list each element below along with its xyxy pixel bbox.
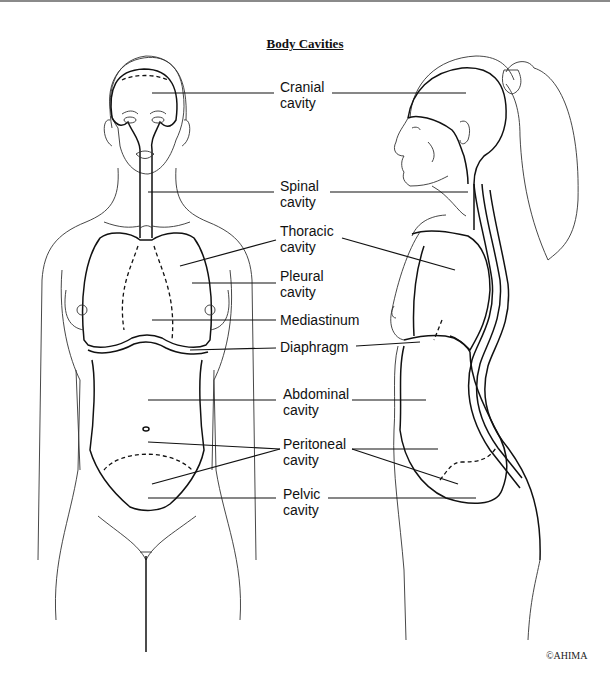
- side-figure: [391, 56, 578, 640]
- label-mediastinum: Mediastinum: [280, 312, 359, 328]
- label-cranial-cavity: Cranial cavity: [280, 79, 324, 111]
- label-cranial-line2: cavity: [280, 95, 324, 111]
- label-thoracic-line2: cavity: [280, 239, 334, 255]
- label-pelvic-line1: Pelvic: [283, 486, 320, 502]
- label-pelvic-cavity: Pelvic cavity: [283, 486, 320, 518]
- label-thoracic-line1: Thoracic: [280, 223, 334, 239]
- label-diaphragm: Diaphragm: [280, 339, 348, 355]
- label-peritoneal-line2: cavity: [283, 452, 346, 468]
- label-diaphragm-line1: Diaphragm: [280, 339, 348, 355]
- label-peritoneal-cavity: Peritoneal cavity: [283, 436, 346, 468]
- front-figure: [38, 56, 256, 652]
- label-abdominal-cavity: Abdominal cavity: [283, 386, 349, 418]
- label-spinal-line1: Spinal: [280, 178, 319, 194]
- label-peritoneal-line1: Peritoneal: [283, 436, 346, 452]
- label-pleural-line2: cavity: [280, 284, 324, 300]
- label-spinal-line2: cavity: [280, 194, 319, 210]
- label-pleural-cavity: Pleural cavity: [280, 268, 324, 300]
- label-mediastinum-line1: Mediastinum: [280, 312, 359, 328]
- label-pleural-line1: Pleural: [280, 268, 324, 284]
- label-thoracic-cavity: Thoracic cavity: [280, 223, 334, 255]
- label-cranial-line1: Cranial: [280, 79, 324, 95]
- label-spinal-cavity: Spinal cavity: [280, 178, 319, 210]
- copyright-notice: ©AHIMA: [546, 650, 587, 661]
- label-pelvic-line2: cavity: [283, 502, 320, 518]
- label-abdominal-line1: Abdominal: [283, 386, 349, 402]
- label-abdominal-line2: cavity: [283, 402, 349, 418]
